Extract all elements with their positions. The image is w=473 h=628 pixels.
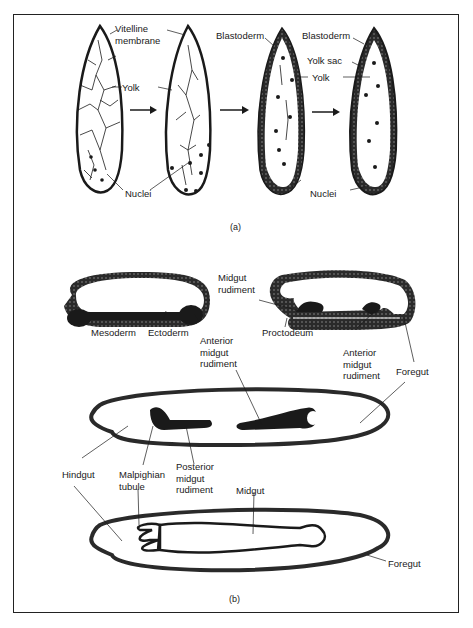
caption-b: (b) bbox=[229, 594, 240, 604]
label-blastoderm: Blastoderm bbox=[302, 30, 350, 42]
arrow-icon bbox=[220, 106, 249, 114]
label-blastoderm: Blastoderm bbox=[216, 30, 264, 42]
label-nuclei: Nuclei bbox=[310, 188, 336, 200]
embryo-b3 bbox=[91, 389, 388, 445]
label-foregut: Foregut bbox=[388, 558, 421, 570]
label-mesoderm: Mesoderm bbox=[91, 327, 136, 339]
egg-stage-4 bbox=[350, 28, 396, 194]
label-midgut: Midgut bbox=[236, 485, 265, 497]
label-yolk: Yolk bbox=[312, 72, 330, 84]
label-anterior-midgut-rudiment: Anterior midgut rudiment bbox=[343, 347, 380, 382]
label-proctodeum: Proctodeum bbox=[262, 327, 313, 339]
leader-lines-b bbox=[74, 300, 414, 561]
egg-stage-2 bbox=[166, 26, 211, 194]
embryo-b4 bbox=[91, 510, 388, 570]
embryo-b2 bbox=[270, 270, 416, 330]
label-yolk-sac: Yolk sac bbox=[307, 55, 342, 67]
label-midgut-rudiment: Midgut rudiment bbox=[218, 272, 255, 295]
label-yolk: Yolk bbox=[122, 82, 140, 94]
diagram-drawing bbox=[0, 0, 473, 628]
label-malpighian-tubule: Malpighian tubule bbox=[119, 469, 165, 492]
egg-stage-1 bbox=[77, 26, 122, 192]
caption-a: (a) bbox=[230, 222, 241, 232]
embryo-development-figure: Vitelline membrane Yolk Nuclei Blastoder… bbox=[0, 0, 473, 628]
egg-stage-3 bbox=[258, 28, 304, 194]
label-ectoderm: Ectoderm bbox=[148, 327, 189, 339]
label-anterior-midgut-rudiment: Anterior midgut rudiment bbox=[200, 335, 237, 370]
label-posterior-midgut-rudiment: Posterior midgut rudiment bbox=[176, 461, 214, 496]
embryo-b1 bbox=[64, 272, 210, 327]
label-foregut: Foregut bbox=[396, 366, 429, 378]
label-nuclei: Nuclei bbox=[125, 188, 151, 200]
label-hindgut: Hindgut bbox=[62, 469, 95, 481]
label-vitelline-membrane: Vitelline membrane bbox=[115, 23, 160, 46]
arrow-icon bbox=[130, 106, 157, 114]
arrow-icon bbox=[312, 108, 340, 116]
